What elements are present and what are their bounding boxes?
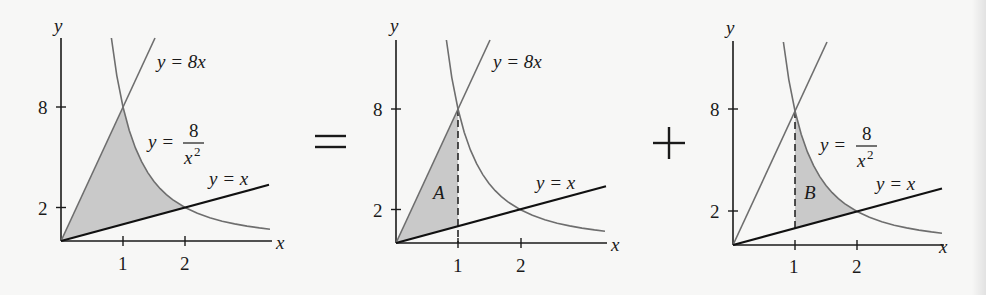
equals-sign (315, 136, 346, 147)
y-tick-label-2: 2 (373, 200, 383, 221)
x-tick-label-1: 1 (789, 256, 799, 277)
y-tick-label-8: 8 (38, 97, 48, 118)
y-axis-label: y (52, 15, 63, 36)
y-tick-label-8: 8 (373, 99, 383, 120)
svg-text:y =: y = (146, 131, 174, 152)
x-axis-label: x (938, 236, 948, 257)
svg-text:2: 2 (194, 144, 201, 159)
label-line-y-equals-x: y = x (874, 173, 916, 194)
x-tick-label-1: 1 (118, 253, 128, 274)
svg-text:x: x (856, 150, 866, 171)
y-tick-label-2: 2 (710, 201, 720, 222)
label-hyperbola: y = 8 x 2 (146, 120, 204, 168)
x-tick-label-2: 2 (516, 255, 526, 276)
y-tick-label-2: 2 (38, 198, 48, 219)
x-axis-label: x (275, 232, 285, 253)
region-label-B: B (804, 182, 816, 203)
shaded-region-total (61, 107, 185, 241)
y-axis-label: y (388, 15, 399, 36)
svg-text:8: 8 (862, 123, 872, 144)
region-label-A: A (431, 182, 445, 203)
svg-text:8: 8 (189, 120, 199, 141)
x-tick-label-1: 1 (453, 255, 463, 276)
label-line-y-equals-x: y = x (207, 168, 249, 189)
y-tick-label-8: 8 (710, 99, 720, 120)
y-axis-label: y (724, 17, 735, 38)
svg-text:y =: y = (818, 134, 846, 155)
area-decomposition-figure: y x 8 2 1 2 y = 8x y = 8 x 2 y = x y x 8… (0, 0, 986, 295)
label-line-y-equals-x: y = x (534, 172, 576, 193)
x-tick-label-2: 2 (852, 256, 862, 277)
svg-text:x: x (183, 147, 193, 168)
label-line-8x: y = 8x (155, 51, 206, 72)
plus-sign (653, 127, 685, 159)
label-hyperbola: y = 8 x 2 (818, 123, 877, 171)
label-line-8x: y = 8x (491, 51, 542, 72)
x-tick-label-2: 2 (180, 253, 190, 274)
shaded-region-B (795, 111, 857, 228)
x-axis-label: x (610, 234, 620, 255)
svg-text:2: 2 (867, 147, 874, 162)
